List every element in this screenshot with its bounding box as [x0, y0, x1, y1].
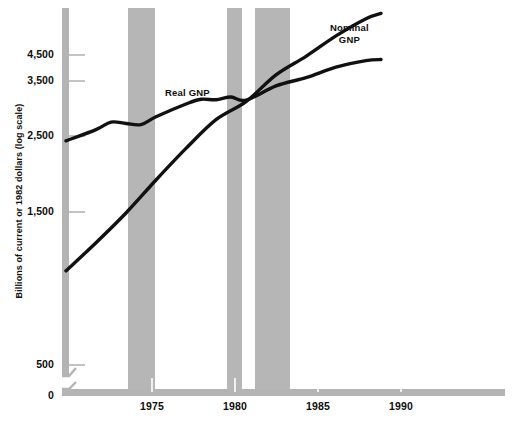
y-tick-label: 4,500 — [8, 48, 54, 60]
y-tick-label: 3,500 — [8, 74, 54, 86]
x-axis-line — [62, 389, 505, 396]
y-axis-line — [62, 8, 69, 396]
x-tick-label: 1975 — [129, 400, 175, 412]
y-tick-label: 0 — [8, 389, 54, 401]
series-label-real-gnp: Real GNP — [165, 87, 210, 99]
series-label-nominal-gnp: Nominal GNP — [330, 22, 369, 45]
x-tick-label: 1990 — [378, 400, 424, 412]
series-lines-layer — [66, 13, 381, 270]
y-tick-label: 500 — [8, 358, 54, 370]
recession-1981-1982 — [255, 8, 290, 390]
gnp-line-chart: 4,5003,5002,5001,5005000 197519801985199… — [0, 0, 516, 428]
series-line-nominal-gnp — [66, 13, 381, 270]
series-line-real-gnp — [66, 60, 381, 141]
x-tick-label: 1985 — [295, 400, 341, 412]
y-tick-labels: 4,5003,5002,5001,5005000 — [0, 0, 54, 428]
y-tick-marks-layer — [69, 55, 85, 365]
y-axis-title: Billions of current or 1982 dollars (log… — [14, 86, 24, 316]
recession-1973-1975 — [128, 8, 155, 390]
recession-1980 — [227, 8, 242, 390]
chart-canvas — [0, 0, 516, 428]
recession-bands-layer — [128, 8, 290, 390]
x-tick-label: 1980 — [212, 400, 258, 412]
